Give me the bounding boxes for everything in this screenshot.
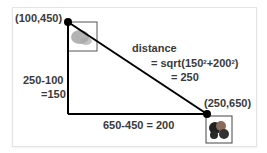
point-a-marker — [64, 18, 72, 26]
vertical-leg-label-1: 250-100 — [23, 74, 63, 86]
point-a-label: (100,450) — [15, 12, 62, 24]
horizontal-leg-label: 650-450 = 200 — [103, 119, 174, 131]
distance-result: = 250 — [171, 71, 199, 83]
image-thumbnail-a — [68, 22, 97, 51]
image-thumbnail-b — [206, 116, 232, 143]
distance-formula: = sqrt(1502+2002) — [151, 57, 238, 69]
distance-title: distance — [132, 42, 177, 54]
vertical-leg-label-2: =150 — [41, 88, 66, 100]
point-b-label: (250,650) — [204, 97, 251, 109]
point-b-marker — [203, 110, 211, 118]
